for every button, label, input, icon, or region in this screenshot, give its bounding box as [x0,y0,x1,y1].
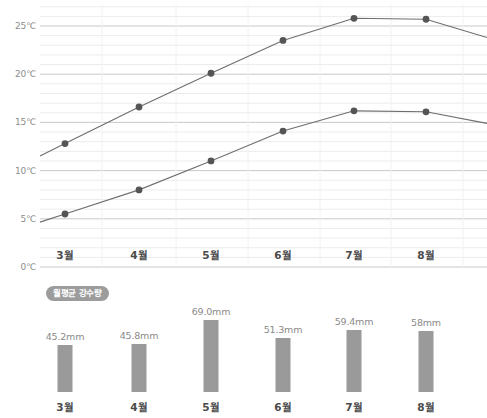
x-axis-tick-label: 5월 [202,247,219,262]
x-axis-tick-label: 3월 [56,247,73,262]
temperature-line-chart: 0℃5℃10℃15℃20℃25℃ 3월4월5월6월7월8월 [0,0,487,275]
precipitation-bar-chart: 월평균 강수량 45.2mm3월45.8mm4월69.0mm5월51.3mm6월… [0,275,487,418]
bar-category-label: 5월 [202,399,219,414]
bar-rect[interactable] [204,320,219,392]
bar-value-label: 69.0mm [192,306,230,317]
bar-value-label: 51.3mm [264,324,302,335]
line-chart-x-axis: 3월4월5월6월7월8월 [0,0,487,275]
x-axis-tick-label: 4월 [130,247,147,262]
bar-column[interactable]: 58mm8월 [391,275,461,418]
x-axis-tick-label: 8월 [417,247,434,262]
bar-value-label: 59.4mm [335,316,373,327]
bar-column[interactable]: 45.8mm4월 [104,275,174,418]
bar-rect[interactable] [58,345,73,392]
bar-column[interactable]: 69.0mm5월 [176,275,246,418]
bar-rect[interactable] [347,330,362,392]
bar-rect[interactable] [276,338,291,392]
x-axis-tick-label: 6월 [274,247,291,262]
bar-value-label: 45.2mm [46,331,84,342]
bar-category-label: 8월 [417,399,434,414]
x-axis-tick-label: 7월 [345,247,362,262]
bar-rect[interactable] [132,344,147,392]
bar-value-label: 45.8mm [120,330,158,341]
bar-column[interactable]: 51.3mm6월 [248,275,318,418]
bar-column[interactable]: 59.4mm7월 [319,275,389,418]
bar-column[interactable]: 45.2mm3월 [30,275,100,418]
bar-category-label: 4월 [130,399,147,414]
bar-rect[interactable] [419,331,434,392]
bar-category-label: 6월 [274,399,291,414]
bar-category-label: 7월 [345,399,362,414]
bar-value-label: 58mm [411,317,441,328]
bar-category-label: 3월 [56,399,73,414]
